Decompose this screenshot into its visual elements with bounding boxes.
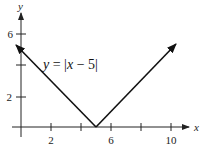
x-tick-label-2: 2 [48, 134, 54, 146]
y-axis-label: y [17, 0, 23, 12]
y-tick-label-6: 6 [8, 28, 14, 40]
x-axis-label: x [193, 121, 199, 133]
x-tick-label-6: 6 [108, 134, 114, 146]
absolute-value-graph: 2 6 10 2 6 x y y = |x − 5| [0, 0, 202, 148]
graph-right-branch [96, 44, 176, 127]
y-tick-label-2: 2 [7, 91, 13, 103]
equation-label: y = |x − 5| [41, 57, 98, 72]
x-tick-label-10: 10 [166, 134, 178, 146]
